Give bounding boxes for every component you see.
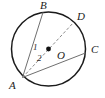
vertex-label-c: C xyxy=(91,44,98,55)
vertex-label-d: D xyxy=(77,11,85,22)
angle-label-1: 1 xyxy=(33,43,38,52)
vertex-label-b: B xyxy=(40,0,47,11)
center-label-o: O xyxy=(57,50,65,61)
geometry-figure: A B C D O 1 2 xyxy=(0,0,105,98)
center-point-dot xyxy=(46,47,51,52)
vertex-label-a: A xyxy=(9,80,16,91)
angle-label-2: 2 xyxy=(37,54,42,63)
